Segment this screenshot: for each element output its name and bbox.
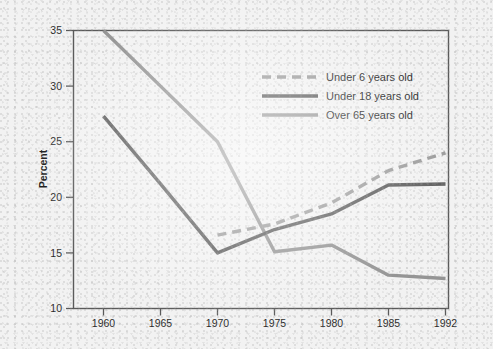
- data-series-layer: [104, 31, 446, 279]
- x-axis-tick-labels: 1960 1965 1970 1975 1980 1985 1992: [92, 317, 458, 329]
- y-tick-label: 30: [50, 80, 62, 92]
- chart-legend: Under 6 years old Under 18 years old Ove…: [262, 71, 419, 121]
- chart-figure: 35 30 25 20 15 10 Percent 1960 1965 1970…: [0, 0, 493, 349]
- legend-label-under-6-years-old: Under 6 years old: [326, 71, 413, 83]
- x-tick-label: 1960: [92, 317, 116, 329]
- x-tick-label: 1992: [434, 317, 458, 329]
- series-line-over-65-years-old: [104, 31, 446, 279]
- series-line-under-6-years-old: [218, 153, 446, 235]
- y-tick-label: 10: [50, 302, 62, 314]
- y-tick-label: 20: [50, 191, 62, 203]
- x-axis-ticks: [104, 309, 446, 316]
- y-tick-label: 35: [50, 24, 62, 36]
- legend-label-under-18-years-old: Under 18 years old: [326, 90, 419, 102]
- y-tick-label: 25: [50, 135, 62, 147]
- y-axis-ticks: [66, 31, 74, 309]
- x-tick-label: 1970: [206, 317, 230, 329]
- line-chart: 35 30 25 20 15 10 Percent 1960 1965 1970…: [0, 0, 493, 349]
- y-axis-tick-labels: 35 30 25 20 15 10: [50, 24, 62, 314]
- x-tick-label: 1980: [320, 317, 344, 329]
- x-tick-label: 1975: [263, 317, 287, 329]
- legend-label-over-65-years-old: Over 65 years old: [326, 109, 413, 121]
- series-line-under-18-years-old: [104, 116, 446, 253]
- y-tick-label: 15: [50, 247, 62, 259]
- x-tick-label: 1965: [149, 317, 173, 329]
- x-tick-label: 1985: [377, 317, 401, 329]
- y-axis-title: Percent: [37, 149, 49, 188]
